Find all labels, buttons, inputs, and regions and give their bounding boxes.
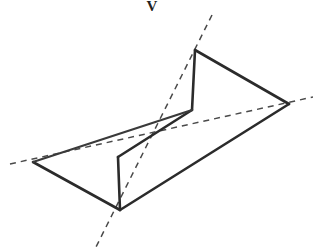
v-label-text: V <box>147 0 158 14</box>
geometric-figure-svg: V <box>0 0 313 249</box>
figure-canvas: V <box>0 0 313 249</box>
